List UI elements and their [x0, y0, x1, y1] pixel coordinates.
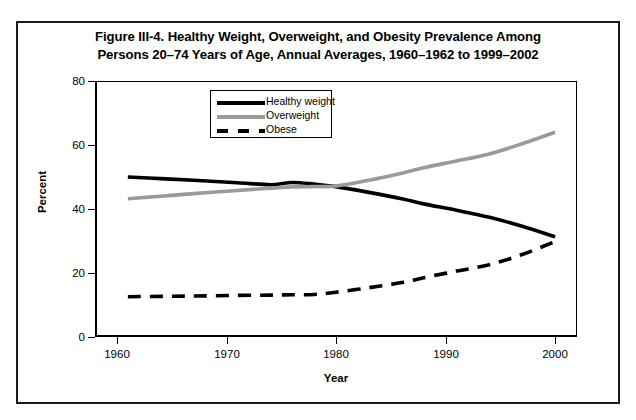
x-tick-label-1980: 1980	[306, 348, 366, 360]
legend-label-healthy-weight: Healthy weight	[266, 95, 335, 107]
y-tick-80	[88, 81, 95, 82]
x-tick-label-1990: 1990	[416, 348, 476, 360]
legend-swatch-dashed-black-line	[216, 123, 266, 135]
y-tick-40	[88, 209, 95, 210]
y-tick-20	[88, 273, 95, 274]
y-tick-label-80: 80	[37, 75, 85, 87]
x-tick-label-1960: 1960	[87, 348, 147, 360]
y-tick-label-0: 0	[37, 331, 85, 343]
x-tick-label-1970: 1970	[197, 348, 257, 360]
y-tick-60	[88, 145, 95, 146]
page-title: Figure III-4. Healthy Weight, Overweight…	[18, 28, 618, 64]
x-tick-1960	[117, 337, 118, 344]
legend-swatch-solid-gray-line	[216, 109, 266, 121]
chart-title-line-1: Figure III-4. Healthy Weight, Overweight…	[95, 29, 541, 44]
legend-label-obese: Obese	[266, 123, 297, 135]
y-tick-0	[88, 337, 95, 338]
legend-item-healthy-weight: Healthy weight	[211, 94, 331, 108]
legend-item-overweight: Overweight	[211, 108, 331, 122]
x-axis-title: Year	[95, 372, 577, 384]
x-tick-1970	[227, 337, 228, 344]
y-tick-label-20: 20	[37, 267, 85, 279]
x-tick-label-2000: 2000	[525, 348, 585, 360]
legend-item-obese: Obese	[211, 122, 331, 136]
y-axis-title: Percent	[36, 142, 48, 242]
chart-series-canvas	[95, 81, 577, 337]
chart-title-line-2: Persons 20–74 Years of Age, Annual Avera…	[18, 46, 618, 64]
legend-label-overweight: Overweight	[266, 109, 319, 121]
x-tick-1990	[446, 337, 447, 344]
series-line-obese	[128, 242, 555, 297]
chart-legend: Healthy weight Overweight Obese	[210, 90, 332, 138]
legend-swatch-solid-black-line	[216, 95, 266, 107]
x-tick-2000	[555, 337, 556, 344]
x-tick-1980	[336, 337, 337, 344]
